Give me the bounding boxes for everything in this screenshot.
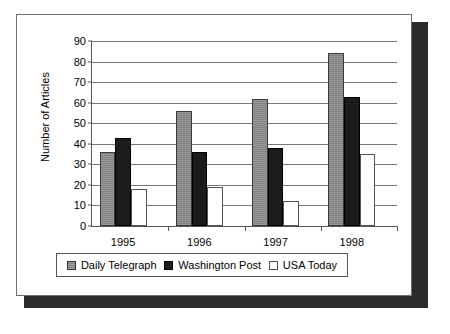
y-axis-tick-label: 10	[74, 199, 86, 211]
x-axis-tick-mark	[397, 226, 398, 231]
y-axis-tick-label: 60	[74, 97, 86, 109]
bar-1995-series-2	[131, 189, 147, 226]
bar-1998-series-0	[328, 53, 344, 226]
x-axis-tick-label-1995: 1995	[111, 236, 135, 248]
plot-area: 01020304050607080901995199619971998	[91, 41, 397, 227]
legend-swatch-icon	[164, 261, 173, 270]
y-axis-tick-label: 80	[74, 56, 86, 68]
y-axis-tick-mark	[88, 61, 92, 62]
gridline	[92, 41, 397, 42]
plot-inner: 01020304050607080901995199619971998	[92, 41, 397, 226]
x-axis-tick-label-1996: 1996	[187, 236, 211, 248]
bar-1996-series-0	[176, 111, 192, 226]
bar-1997-series-0	[252, 99, 268, 226]
legend-swatch-icon	[269, 261, 278, 270]
y-axis-tick-label: 70	[74, 76, 86, 88]
x-axis-tick-mark	[168, 226, 169, 231]
y-axis-tick-label: 50	[74, 117, 86, 129]
y-axis-tick-mark	[88, 82, 92, 83]
y-axis-tick-mark	[88, 123, 92, 124]
gridline	[92, 62, 397, 63]
x-axis-tick-label-1997: 1997	[263, 236, 287, 248]
y-axis-tick-mark	[88, 205, 92, 206]
y-axis-tick-mark	[88, 184, 92, 185]
x-axis-tick-mark	[245, 226, 246, 231]
x-axis-tick-mark	[321, 226, 322, 231]
y-axis-tick-mark	[88, 102, 92, 103]
legend-label: Washington Post	[178, 259, 261, 271]
legend-item[interactable]: Daily Telegraph	[67, 259, 157, 271]
chart-legend: Daily TelegraphWashington PostUSA Today	[56, 253, 348, 277]
legend-swatch-icon	[67, 261, 76, 270]
y-axis-tick-label: 30	[74, 158, 86, 170]
y-axis-tick-mark	[88, 164, 92, 165]
bar-1998-series-1	[344, 97, 360, 227]
gridline	[92, 82, 397, 83]
bar-1998-series-2	[360, 154, 376, 226]
bar-1997-series-1	[268, 148, 284, 226]
y-axis-tick-label: 0	[80, 220, 86, 232]
y-axis-tick-mark	[88, 41, 92, 42]
x-axis-tick-label-1998: 1998	[340, 236, 364, 248]
bar-1996-series-1	[192, 152, 208, 226]
legend-label: Daily Telegraph	[81, 259, 157, 271]
y-axis-tick-mark	[88, 143, 92, 144]
bar-1995-series-0	[100, 152, 116, 226]
bar-1997-series-2	[283, 201, 299, 226]
y-axis-tick-label: 20	[74, 179, 86, 191]
y-axis-tick-label: 40	[74, 138, 86, 150]
y-axis-title: Number of Articles	[39, 42, 51, 192]
legend-item[interactable]: USA Today	[269, 259, 337, 271]
bar-1996-series-2	[207, 187, 223, 226]
legend-item[interactable]: Washington Post	[164, 259, 261, 271]
y-axis-tick-mark	[88, 226, 92, 227]
legend-label: USA Today	[283, 259, 337, 271]
y-axis-tick-label: 90	[74, 35, 86, 47]
bar-1995-series-1	[115, 138, 131, 226]
